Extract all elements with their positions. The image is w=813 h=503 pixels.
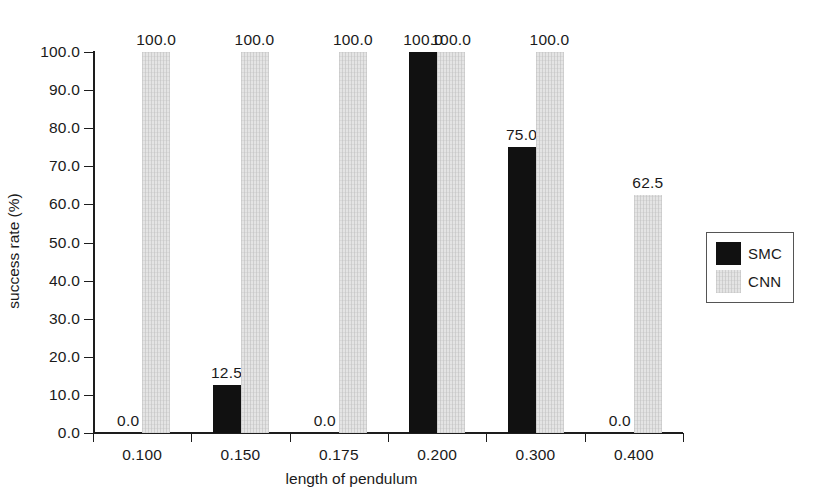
bar-value-label: 100.0 [333, 31, 373, 49]
x-axis-tick-label: 0.150 [221, 446, 261, 464]
bar-smc-0.300 [508, 147, 536, 433]
y-axis-tick [84, 204, 93, 205]
bar-cnn-0.400 [634, 195, 662, 433]
y-axis-tick-label: 30.0 [49, 310, 80, 328]
bar-chart: 0.0100.012.5100.00.0100.0100.0100.075.01… [0, 0, 813, 503]
bar-value-label: 0.0 [609, 412, 631, 430]
y-axis-tick [84, 395, 93, 396]
y-axis-tick-label: 50.0 [49, 234, 80, 252]
legend-item-smc: SMC [716, 242, 782, 265]
bar-smc-0.150 [213, 385, 241, 433]
x-axis-tick [585, 433, 586, 442]
x-axis-tick-label: 0.300 [516, 446, 556, 464]
y-axis-tick [84, 319, 93, 320]
bar-cnn-0.150 [241, 52, 269, 433]
x-axis-tick [486, 433, 487, 442]
bar-value-label: 100.0 [530, 31, 570, 49]
bar-value-label: 0.0 [117, 412, 139, 430]
x-axis-title-text: length of pendulum [286, 470, 418, 488]
bar-cnn-0.175 [339, 52, 367, 433]
x-axis-tick-label: 0.175 [319, 446, 359, 464]
legend: SMC CNN [706, 232, 794, 303]
y-axis-tick-label: 90.0 [49, 81, 80, 99]
y-axis-tick-label: 10.0 [49, 386, 80, 404]
y-axis-tick [84, 128, 93, 129]
bar-smc-0.200 [409, 52, 437, 433]
x-axis-tick [683, 433, 684, 442]
bar-cnn-0.300 [536, 52, 564, 433]
y-axis-tick-label: 80.0 [49, 119, 80, 137]
x-axis-tick-label: 0.400 [614, 446, 654, 464]
y-axis-title: success rate (%) [5, 41, 23, 461]
y-axis-tick [84, 433, 93, 434]
legend-label-smc: SMC [748, 245, 782, 262]
y-axis-tick [84, 166, 93, 167]
y-axis-tick [84, 243, 93, 244]
x-axis-tick [290, 433, 291, 442]
y-axis-tick-label: 0.0 [58, 424, 80, 442]
y-axis-tick [84, 90, 93, 91]
plot-area: 0.0100.012.5100.00.0100.0100.0100.075.01… [93, 52, 683, 433]
y-axis-tick [84, 281, 93, 282]
y-axis-tick-label: 70.0 [49, 157, 80, 175]
bar-value-label: 75.0 [506, 126, 537, 144]
bar-value-label: 100.0 [431, 31, 471, 49]
bar-value-label: 12.5 [211, 364, 242, 382]
x-axis-tick [191, 433, 192, 442]
y-axis-tick-label: 20.0 [49, 348, 80, 366]
x-axis-tick [388, 433, 389, 442]
legend-swatch-smc-icon [716, 242, 741, 265]
bar-value-label: 0.0 [314, 412, 336, 430]
bar-value-label: 100.0 [235, 31, 275, 49]
y-axis-tick-label: 40.0 [49, 272, 80, 290]
bar-cnn-0.100 [142, 52, 170, 433]
y-axis-tick-label: 60.0 [49, 195, 80, 213]
legend-swatch-cnn-icon [716, 270, 741, 293]
x-axis-title: length of pendulum [0, 470, 813, 488]
legend-label-cnn: CNN [748, 273, 781, 290]
bar-cnn-0.200 [437, 52, 465, 433]
y-axis-tick [84, 52, 93, 53]
bar-value-label: 100.0 [136, 31, 176, 49]
x-axis-tick-label: 0.100 [122, 446, 162, 464]
x-axis-tick-label: 0.200 [417, 446, 457, 464]
legend-item-cnn: CNN [716, 270, 781, 293]
y-axis-tick [84, 357, 93, 358]
x-axis-tick [93, 433, 94, 442]
bar-value-label: 62.5 [632, 174, 663, 192]
y-axis-tick-label: 100.0 [40, 43, 80, 61]
